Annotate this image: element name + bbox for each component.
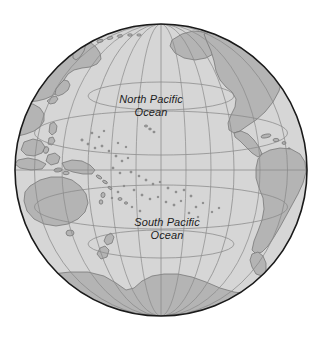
globe-map xyxy=(0,0,324,338)
pacific-ocean-globe-figure: North Pacific Ocean South Pacific Ocean xyxy=(0,0,324,338)
land-tasmania xyxy=(66,230,74,236)
land-greenland xyxy=(248,19,276,37)
land-antarctica xyxy=(22,272,302,328)
land-arctic-canada xyxy=(216,21,259,38)
